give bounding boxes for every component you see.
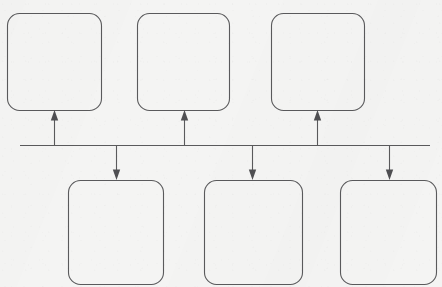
top-node-label-2 xyxy=(137,13,229,110)
down-arrow-3[interactable] xyxy=(386,146,393,180)
down-arrow-3-head xyxy=(386,170,393,181)
bottom-node-label-3 xyxy=(340,180,436,284)
top-node-label-1 xyxy=(7,13,101,110)
bottom-node-label-2 xyxy=(204,180,302,284)
top-node-label-3 xyxy=(271,13,364,110)
diagram-canvas xyxy=(0,0,442,287)
bus-line-label xyxy=(20,131,430,143)
up-arrow-3-head xyxy=(314,110,321,121)
up-arrow-2-head xyxy=(181,110,188,121)
down-arrow-2-head xyxy=(249,170,256,181)
down-arrow-group xyxy=(113,146,393,180)
down-arrow-1-head xyxy=(113,170,120,181)
down-arrow-2[interactable] xyxy=(249,146,256,180)
up-arrow-1-head xyxy=(51,110,58,121)
bottom-node-label-1 xyxy=(68,180,163,284)
down-arrow-1[interactable] xyxy=(113,146,120,180)
